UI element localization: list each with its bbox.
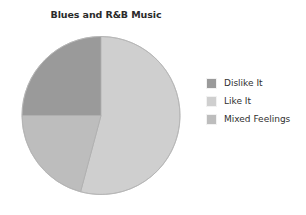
legend-item-dislike-it[interactable]: Dislike It (206, 74, 304, 92)
legend-swatch-dislike-it (206, 78, 217, 89)
chart-title: Blues and R&B Music (0, 9, 212, 20)
legend-label-mixed-feelings: Mixed Feelings (224, 114, 290, 125)
legend-swatch-like-it (206, 96, 217, 107)
pie-plot-area (21, 35, 181, 196)
legend-label-dislike-it: Dislike It (224, 78, 263, 89)
legend-item-like-it[interactable]: Like It (206, 92, 304, 110)
pie-svg (21, 35, 181, 196)
legend-swatch-mixed-feelings (206, 114, 217, 125)
legend-item-mixed-feelings[interactable]: Mixed Feelings (206, 110, 304, 128)
legend-label-like-it: Like It (224, 96, 251, 107)
pie-chart-figure: Blues and R&B Music Dislike It Like It M… (0, 0, 306, 215)
chart-legend: Dislike It Like It Mixed Feelings (206, 74, 304, 128)
pie-slice-dislike-it[interactable] (22, 37, 101, 116)
pie-slice-group (22, 37, 180, 195)
